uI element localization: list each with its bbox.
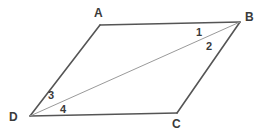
angle-label-1: 1 [196,27,202,38]
vertex-label-b: B [245,11,254,23]
diagonal-DB [30,22,240,116]
vertex-label-a: A [94,7,103,19]
angle-label-3: 3 [48,90,54,101]
vertex-label-d: D [9,111,18,123]
figure-canvas [0,0,269,134]
angle-label-2: 2 [206,41,212,52]
edge-CD [30,113,177,116]
geometry-figure: A B C D 1 2 3 4 [0,0,269,134]
angle-label-4: 4 [60,104,66,115]
edge-AB [100,22,240,25]
vertex-label-c: C [172,118,181,130]
